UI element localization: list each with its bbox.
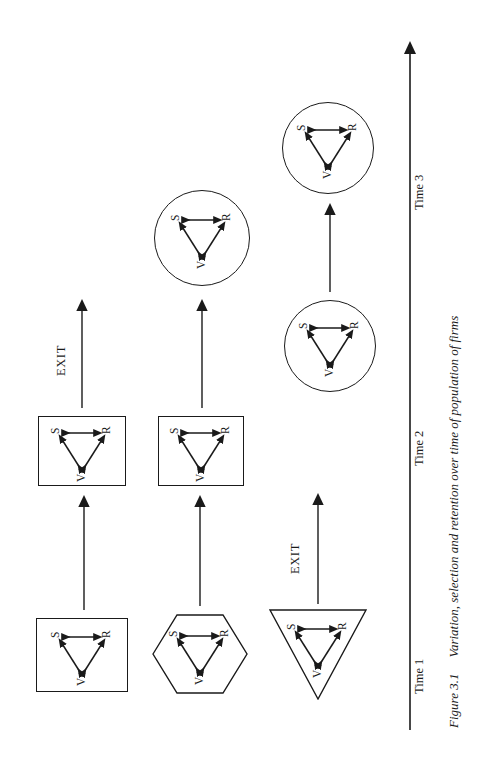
figure-canvas: V S R V S R bbox=[0, 0, 490, 766]
vsr-label-v: V bbox=[321, 170, 333, 179]
vsr-label-v: V bbox=[194, 473, 206, 482]
exit-label-1: EXIT bbox=[288, 543, 303, 574]
vsr-diagram: V S R bbox=[300, 117, 356, 179]
transition-arrow-t2-square-top-exit bbox=[76, 298, 88, 408]
vsr-diagram: V S R bbox=[173, 420, 229, 482]
firm-t3-circle-top: V S R bbox=[154, 190, 250, 286]
vsr-label-r: R bbox=[219, 426, 231, 434]
vsr-label-v: V bbox=[75, 677, 87, 686]
figure-caption-number: Figure 3.1 bbox=[446, 674, 461, 728]
firm-t1-triangle: V S R bbox=[268, 608, 368, 700]
time-tick-1: Time 1 bbox=[412, 659, 427, 694]
time-tick-2: Time 2 bbox=[412, 431, 427, 466]
vsr-label-r: R bbox=[348, 321, 360, 329]
vsr-label-r: R bbox=[346, 123, 358, 131]
vsr-label-s: S bbox=[295, 125, 307, 131]
vsr-label-v: V bbox=[195, 260, 207, 269]
vsr-label-v: V bbox=[75, 473, 87, 482]
transition-arrow-square bbox=[78, 494, 90, 610]
vsr-label-s: S bbox=[49, 632, 61, 638]
firm-t2-square-mid: V S R bbox=[158, 416, 244, 486]
exit-label-2: EXIT bbox=[54, 345, 69, 376]
time-tick-3: Time 3 bbox=[412, 175, 427, 210]
time-axis bbox=[404, 40, 406, 730]
vsr-label-s: S bbox=[168, 428, 180, 434]
vsr-diagram: V S R bbox=[302, 315, 358, 377]
firm-t2-square-top: V S R bbox=[38, 416, 126, 486]
vsr-label-r: R bbox=[220, 213, 232, 221]
transition-arrow-triangle-exit bbox=[312, 492, 324, 604]
vsr-label-s: S bbox=[49, 428, 61, 434]
transition-arrow-t2-square-mid bbox=[196, 298, 208, 408]
firm-t1-square: V S R bbox=[36, 618, 128, 692]
vsr-label-r: R bbox=[100, 426, 112, 434]
firm-t3-circle-bottom: V S R bbox=[282, 102, 374, 194]
vsr-diagram: V S R bbox=[174, 207, 230, 269]
vsr-label-s: S bbox=[297, 323, 309, 329]
vsr-diagram: V S R bbox=[54, 624, 110, 686]
vsr-label-v: V bbox=[323, 368, 335, 377]
transition-arrow-hexagon bbox=[194, 494, 206, 606]
vsr-label-r: R bbox=[100, 630, 112, 638]
vsr-diagram: V S R bbox=[54, 420, 110, 482]
figure-caption-text: Variation, selection and retention over … bbox=[446, 316, 461, 658]
vsr-label-s: S bbox=[169, 215, 181, 221]
firm-t2-circle: V S R bbox=[284, 300, 376, 392]
transition-arrow-t2-circle bbox=[324, 202, 336, 292]
firm-t1-hexagon: V S R bbox=[152, 614, 248, 694]
figure-caption: Figure 3.1Variation, selection and reten… bbox=[446, 316, 462, 728]
